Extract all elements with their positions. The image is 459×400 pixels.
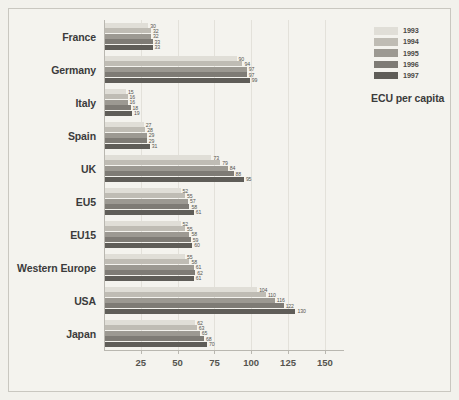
bar-1996	[104, 303, 284, 308]
x-tick	[178, 350, 179, 354]
legend-label-1997: 1997	[403, 71, 419, 80]
legend-item-1994: 1994	[374, 37, 446, 47]
x-tick-label: 25	[136, 357, 147, 368]
x-tick-label: 100	[243, 357, 259, 368]
axis-title-ecu-per-capita: ECU per capita	[371, 92, 457, 104]
legend-item-1995: 1995	[374, 48, 446, 58]
bar-group: 3032323333	[104, 23, 344, 50]
bar-1995	[104, 265, 194, 270]
category-label-eu15: EU15	[70, 229, 96, 241]
bar-1996	[104, 204, 189, 209]
category-label-usa: USA	[74, 295, 96, 307]
bar-1993	[104, 122, 144, 127]
chart-figure: France3032323333Germany9094979799Italy15…	[0, 0, 459, 400]
x-tick-label: 50	[172, 357, 183, 368]
bar-1997	[104, 144, 150, 149]
x-tick	[141, 350, 142, 354]
bar-1993	[104, 254, 185, 259]
category-label-italy: Italy	[75, 97, 96, 109]
category-row: Spain2728292931	[104, 119, 344, 152]
category-label-spain: Spain	[68, 130, 96, 142]
bar-group: 7379848895	[104, 155, 344, 182]
legend-label-1994: 1994	[403, 37, 419, 46]
legend-swatch-1994	[374, 38, 398, 46]
bar-1995	[104, 199, 188, 204]
bar-1995	[104, 133, 147, 138]
bar-1996	[104, 237, 191, 242]
bar-value-label: 130	[297, 308, 305, 314]
category-label-germany: Germany	[51, 64, 96, 76]
category-row: USA104110116122130	[104, 284, 344, 317]
category-row: EU55255575861	[104, 185, 344, 218]
legend-label-1996: 1996	[403, 60, 419, 69]
bar-1997	[104, 45, 153, 50]
category-label-france: France	[62, 31, 96, 43]
legend-swatch-1993	[374, 27, 398, 35]
x-tick	[325, 350, 326, 354]
bar-1995	[104, 166, 228, 171]
category-row: EU155255585960	[104, 218, 344, 251]
bar-1994	[104, 61, 242, 66]
legend-label-1993: 1993	[403, 26, 419, 35]
bar-group: 9094979799	[104, 56, 344, 83]
legend-swatch-1996	[374, 61, 398, 69]
category-label-western-europe: Western Europe	[17, 262, 96, 274]
bar-1996	[104, 138, 147, 143]
bar-value-label: 33	[155, 44, 160, 50]
bar-1993	[104, 188, 181, 193]
bar-1993	[104, 56, 237, 61]
bar-value-label: 31	[152, 143, 157, 149]
bar-value-label: 61	[196, 209, 201, 215]
bar-1994	[104, 325, 197, 330]
category-row: Germany9094979799	[104, 53, 344, 86]
bar-1995	[104, 331, 200, 336]
x-tick-label: 150	[317, 357, 333, 368]
bar-1996	[104, 270, 195, 275]
bar-1996	[104, 171, 234, 176]
bar-1995	[104, 67, 247, 72]
bar-1997	[104, 342, 207, 347]
category-label-uk: UK	[81, 163, 96, 175]
bar-value-label: 95	[246, 176, 251, 182]
bar-1994	[104, 127, 145, 132]
bar-1996	[104, 336, 204, 341]
y-axis-line	[104, 20, 105, 350]
bar-1996	[104, 39, 153, 44]
bar-group: 5558616261	[104, 254, 344, 281]
x-tick-label: 125	[280, 357, 296, 368]
category-row: Italy1516161819	[104, 86, 344, 119]
bar-1997	[104, 78, 250, 83]
bar-group: 5255575861	[104, 188, 344, 215]
legend-label-1995: 1995	[403, 49, 419, 58]
x-tick	[288, 350, 289, 354]
bar-1995	[104, 298, 275, 303]
bar-1993	[104, 23, 148, 28]
bar-1994	[104, 94, 128, 99]
bar-1997	[104, 210, 194, 215]
category-row: Japan6263656870	[104, 317, 344, 350]
bar-1995	[104, 34, 151, 39]
category-label-japan: Japan	[66, 328, 96, 340]
bar-1996	[104, 105, 131, 110]
legend-swatch-1997	[374, 72, 398, 80]
bar-value-label: 99	[252, 77, 257, 83]
bar-1997	[104, 276, 194, 281]
plot-area: France3032323333Germany9094979799Italy15…	[104, 20, 344, 350]
bar-value-label: 70	[209, 341, 214, 347]
x-tick-label: 75	[209, 357, 220, 368]
bar-group: 2728292931	[104, 122, 344, 149]
bar-1994	[104, 193, 185, 198]
bar-1993	[104, 287, 257, 292]
bar-1994	[104, 28, 151, 33]
category-label-eu5: EU5	[76, 196, 96, 208]
bar-1994	[104, 292, 266, 297]
legend-item-1997: 1997	[374, 71, 446, 81]
bar-1997	[104, 111, 132, 116]
x-tick	[251, 350, 252, 354]
bar-1995	[104, 100, 128, 105]
bar-value-label: 19	[134, 110, 139, 116]
bar-value-label: 60	[194, 242, 199, 248]
category-row: Western Europe5558616261	[104, 251, 344, 284]
bar-1997	[104, 243, 192, 248]
bar-group: 5255585960	[104, 221, 344, 248]
